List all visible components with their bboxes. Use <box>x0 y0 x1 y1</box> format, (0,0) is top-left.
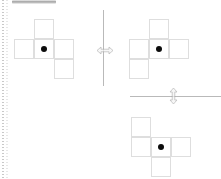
shape-cell[interactable] <box>54 59 74 79</box>
shape-cell[interactable] <box>131 137 151 157</box>
shape-cell[interactable] <box>171 137 191 157</box>
top-toolbar-bar[interactable] <box>12 0 56 4</box>
ruler-guide-primary <box>2 0 4 179</box>
mirror-axis-vertical[interactable] <box>103 10 104 86</box>
resize-horizontal-cursor <box>96 45 114 56</box>
shape-cell[interactable] <box>151 157 171 177</box>
shape-cell[interactable] <box>34 19 54 39</box>
shape-cell[interactable] <box>131 117 151 137</box>
mirror-axis-horizontal[interactable] <box>130 96 221 97</box>
shape-reflection-canvas[interactable] <box>0 0 221 179</box>
shape-cell[interactable] <box>169 39 189 59</box>
ruler-guide-secondary <box>6 0 8 179</box>
shape-anchor-dot[interactable] <box>156 46 162 52</box>
shape-anchor-dot[interactable] <box>158 144 164 150</box>
shape-cell[interactable] <box>129 59 149 79</box>
shape-cell[interactable] <box>129 39 149 59</box>
shape-cell[interactable] <box>14 39 34 59</box>
shape-anchor-dot[interactable] <box>41 46 47 52</box>
shape-cell[interactable] <box>54 39 74 59</box>
shape-cell[interactable] <box>149 19 169 39</box>
